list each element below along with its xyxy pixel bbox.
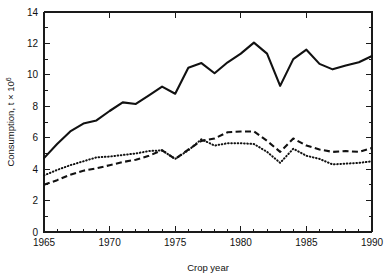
y-tick-label: 2: [32, 195, 38, 206]
chart-background: [0, 0, 386, 277]
x-tick-label: 1965: [33, 237, 56, 248]
x-tick-label: 1980: [230, 237, 253, 248]
x-tick-label: 1970: [98, 237, 121, 248]
x-tick-label: 1985: [295, 237, 318, 248]
y-tick-label: 8: [32, 101, 38, 112]
x-tick-label: 1990: [361, 237, 384, 248]
chart-figure: 02468101214 196519701975198019851990 Cro…: [0, 0, 386, 277]
y-tick-label: 6: [32, 132, 38, 143]
y-tick-label: 4: [32, 164, 38, 175]
x-tick-label: 1975: [164, 237, 187, 248]
y-tick-label: 10: [27, 69, 39, 80]
y-tick-label: 0: [32, 227, 38, 238]
x-axis-title: Crop year: [187, 262, 229, 273]
y-axis-title-exponent: 6: [5, 77, 12, 81]
line-chart: 02468101214 196519701975198019851990 Cro…: [0, 0, 386, 277]
y-tick-label: 14: [27, 7, 39, 18]
y-tick-label: 12: [27, 38, 39, 49]
y-axis-title-base: Consumption, t × 10: [5, 81, 16, 166]
y-axis-title: Consumption, t × 106: [5, 77, 17, 166]
